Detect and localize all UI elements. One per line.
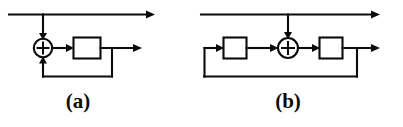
diagram-b xyxy=(201,11,380,77)
caption-a: (a) xyxy=(66,91,91,112)
diagram-a xyxy=(9,11,155,77)
figure-container: (a) (b) xyxy=(0,0,403,127)
b-lower-output-arrowhead xyxy=(371,44,380,52)
a-lower-output-arrowhead xyxy=(133,44,142,52)
b-delay-block-left xyxy=(224,38,247,59)
caption-b: (b) xyxy=(275,91,301,112)
block-diagram-svg xyxy=(0,0,403,127)
b-top-output-arrowhead xyxy=(371,11,380,19)
a-delay-block xyxy=(74,38,101,59)
b-delay-block-right xyxy=(320,38,343,59)
a-top-output-arrowhead xyxy=(146,11,155,19)
